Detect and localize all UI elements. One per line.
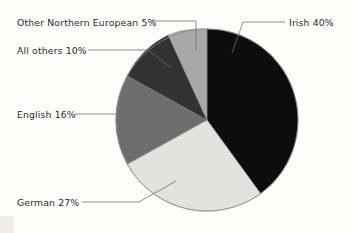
- pie-label-irish: Irish 40%: [289, 18, 334, 27]
- page-edge-artifact: [0, 216, 14, 233]
- pie-label-english: English 16%: [17, 110, 76, 119]
- pie-label-other-northern-european: Other Northern European 5%: [17, 18, 156, 27]
- pie-label-german: German 27%: [17, 198, 79, 207]
- pie-chart-figure: Other Northern European 5% All others 10…: [0, 0, 353, 233]
- pie-label-all-others: All others 10%: [17, 46, 87, 55]
